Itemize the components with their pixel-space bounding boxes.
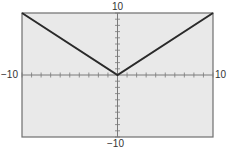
y-min-label: −10 <box>107 139 124 149</box>
x-max-label: 10 <box>215 70 226 80</box>
graph <box>0 0 228 150</box>
x-min-label: −10 <box>1 70 18 80</box>
y-max-label: 10 <box>112 2 123 12</box>
